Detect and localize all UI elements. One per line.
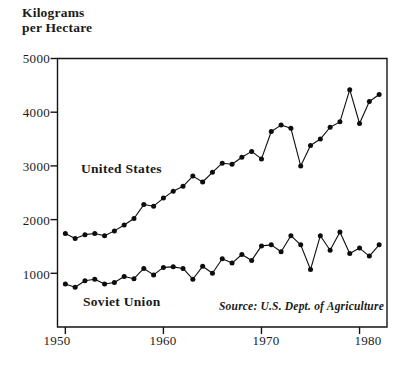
data-point — [337, 119, 342, 124]
data-point — [279, 123, 284, 128]
data-point — [220, 256, 225, 261]
data-point — [279, 249, 284, 254]
x-tick-label-1960: 1960 — [135, 333, 191, 349]
data-point — [308, 267, 313, 272]
data-point — [347, 251, 352, 256]
data-point — [288, 126, 293, 131]
y-axis-title: Kilograms per Hectare — [22, 5, 92, 35]
data-point — [102, 233, 107, 238]
data-point — [249, 258, 254, 263]
data-point — [151, 204, 156, 209]
y-tick-label-2000: 2000 — [6, 213, 50, 229]
data-point — [63, 231, 68, 236]
data-point — [82, 278, 87, 283]
data-point — [259, 156, 264, 161]
data-point — [200, 264, 205, 269]
data-point — [210, 271, 215, 276]
data-point — [73, 236, 78, 241]
data-point — [92, 277, 97, 282]
x-tick-label-1950: 1950 — [29, 333, 85, 349]
chart-figure: Kilograms per Hectare 5000 4000 3000 200… — [0, 0, 411, 365]
data-point — [210, 170, 215, 175]
data-point — [328, 125, 333, 130]
data-point — [367, 99, 372, 104]
data-point — [357, 246, 362, 251]
y-tick-label-4000: 4000 — [6, 105, 50, 121]
data-point — [239, 252, 244, 257]
data-point — [318, 233, 323, 238]
data-point — [269, 242, 274, 247]
data-point — [298, 163, 303, 168]
data-point — [220, 161, 225, 166]
source-note: Source: U.S. Dept. of Agriculture — [219, 300, 384, 312]
data-point — [141, 202, 146, 207]
data-point — [73, 285, 78, 290]
x-tick-marks — [65, 327, 359, 334]
data-point — [92, 231, 97, 236]
data-point — [230, 162, 235, 167]
data-point — [230, 261, 235, 266]
data-point — [171, 264, 176, 269]
data-point — [161, 196, 166, 201]
data-point — [259, 243, 264, 248]
data-point — [181, 266, 186, 271]
data-point — [151, 272, 156, 277]
axes-frame — [58, 59, 388, 328]
series-label-soviet-union: Soviet Union — [83, 294, 161, 310]
data-point — [308, 143, 313, 148]
data-point — [288, 233, 293, 238]
data-point — [63, 282, 68, 287]
data-point — [181, 184, 186, 189]
y-tick-label-5000: 5000 — [6, 51, 50, 67]
data-point — [298, 242, 303, 247]
data-point — [102, 282, 107, 287]
data-point — [161, 265, 166, 270]
data-point — [82, 232, 87, 237]
y-tick-label-3000: 3000 — [6, 159, 50, 175]
data-point — [190, 174, 195, 179]
data-point — [377, 242, 382, 247]
data-point — [239, 155, 244, 160]
data-point — [367, 254, 372, 259]
data-point — [337, 229, 342, 234]
data-point — [122, 274, 127, 279]
x-tick-label-1980: 1980 — [340, 333, 396, 349]
y-tick-label-1000: 1000 — [6, 267, 50, 283]
data-point — [112, 228, 117, 233]
data-point — [112, 280, 117, 285]
data-point — [141, 266, 146, 271]
series-label-united-states: United States — [81, 161, 162, 177]
y-tick-marks — [51, 59, 58, 274]
data-point — [200, 180, 205, 185]
data-point — [171, 189, 176, 194]
series-markers — [63, 87, 382, 290]
data-point — [190, 277, 195, 282]
data-point — [131, 216, 136, 221]
data-point — [131, 276, 136, 281]
data-point — [269, 129, 274, 134]
data-point — [357, 121, 362, 126]
data-point — [249, 149, 254, 154]
x-tick-label-1970: 1970 — [238, 333, 294, 349]
data-point — [318, 137, 323, 142]
data-point — [122, 222, 127, 227]
data-point — [328, 248, 333, 253]
data-point — [377, 92, 382, 97]
data-point — [347, 87, 352, 92]
